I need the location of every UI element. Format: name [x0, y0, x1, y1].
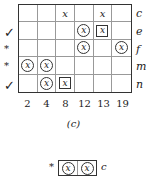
grid-cell — [19, 75, 38, 92]
grid-cell — [94, 57, 113, 74]
boxed-x-icon: x — [96, 25, 108, 37]
grid-cell: x — [19, 57, 38, 74]
grid-cell — [112, 22, 131, 39]
grid-cell — [94, 40, 113, 57]
grid-cell — [38, 5, 57, 22]
grid-cell: x — [75, 40, 94, 57]
grid-cell: x — [38, 57, 57, 74]
circled-x-icon: x — [77, 24, 90, 37]
column-label: 2 — [18, 98, 37, 109]
sub-figure-box: xx — [58, 160, 97, 176]
row-label: m — [136, 60, 146, 73]
grid-cell: x — [112, 40, 131, 57]
column-label: 8 — [56, 98, 75, 109]
row-label: f — [136, 43, 140, 56]
circled-x-icon: x — [77, 41, 90, 54]
grid-cell — [56, 57, 75, 74]
row-label: n — [136, 78, 143, 91]
grid-cell — [56, 40, 75, 57]
circled-x-icon: x — [40, 77, 53, 90]
row-label: e — [136, 25, 143, 38]
grid-cell — [56, 22, 75, 39]
grid-cell — [112, 57, 131, 74]
row-label: c — [136, 7, 142, 20]
grid-cell — [94, 75, 113, 92]
grid-cell — [75, 5, 94, 22]
grid-cell — [38, 40, 57, 57]
figure-caption: (c) — [0, 118, 147, 129]
grid-cell — [19, 22, 38, 39]
incidence-grid: xxxxxxxxxx — [18, 4, 132, 93]
circled-x-icon: x — [40, 59, 53, 72]
column-label: 13 — [94, 98, 113, 109]
grid-cell — [112, 5, 131, 22]
x-mark: x — [62, 8, 68, 19]
sub-figure-label: c — [101, 161, 107, 172]
grid-cell: x — [75, 22, 94, 39]
boxed-x-icon: x — [59, 77, 71, 89]
grid-cell — [75, 57, 94, 74]
grid-cell — [38, 22, 57, 39]
circled-x-icon: x — [115, 41, 128, 54]
grid-cell: x — [56, 5, 75, 22]
grid-cell — [112, 75, 131, 92]
x-mark: x — [100, 8, 106, 19]
sub-figure-mark: * — [49, 161, 54, 172]
grid-cell — [19, 5, 38, 22]
sub-figure-cell: x — [59, 161, 78, 175]
star-mark: * — [4, 43, 9, 54]
grid-cell: x — [56, 75, 75, 92]
grid-cell — [19, 40, 38, 57]
column-label: 4 — [37, 98, 56, 109]
check-mark-icon: ✓ — [4, 25, 15, 40]
circled-x-icon: x — [81, 162, 94, 175]
sub-figure-cell: x — [78, 161, 96, 175]
circled-x-icon: x — [62, 162, 75, 175]
grid-cell: x — [94, 5, 113, 22]
column-label: 12 — [75, 98, 94, 109]
grid-cell: x — [94, 22, 113, 39]
grid-cell: x — [38, 75, 57, 92]
star-mark: * — [4, 60, 9, 71]
grid-cell — [75, 75, 94, 92]
circled-x-icon: x — [21, 59, 34, 72]
check-mark-icon: ✓ — [4, 78, 15, 93]
column-label: 19 — [113, 98, 132, 109]
